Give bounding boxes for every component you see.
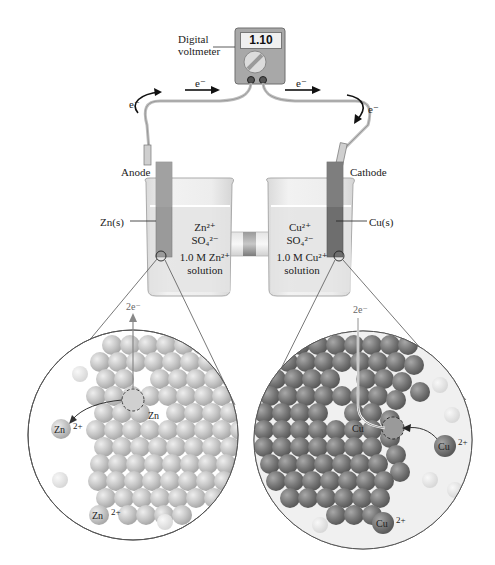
electron-label-right-arrow: e⁻ xyxy=(296,77,307,89)
cu-reduction-site xyxy=(382,417,404,439)
electron-label-left-arrow: e⁻ xyxy=(195,77,206,89)
cathode-concentration: 1.0 M Cu²⁺ xyxy=(265,251,339,264)
left-wire-outline xyxy=(145,83,251,150)
cu-ion-2-charge: 2+ xyxy=(396,514,406,526)
zn-ion-1-label: Zn xyxy=(54,424,65,436)
cathode-ion-so4: SO₄²⁻ xyxy=(270,234,330,247)
anode-label: Anode xyxy=(121,166,150,178)
voltmeter-label-line1: Digital xyxy=(178,33,209,45)
zinc-electrode-label: Zn(s) xyxy=(100,216,124,228)
electron-label-left-curve: e⁻ xyxy=(129,98,140,110)
cu-ion-1-label: Cu xyxy=(438,441,450,453)
cu-atom-label: Cu xyxy=(352,423,364,435)
right-wire xyxy=(263,83,370,148)
copper-surface-zoom xyxy=(254,318,474,551)
left-wire xyxy=(145,83,251,150)
voltmeter-label-line2: voltmeter xyxy=(178,45,220,57)
galvanic-cell-diagram xyxy=(0,0,495,565)
zn-electrons-label: 2e⁻ xyxy=(126,301,141,313)
cu-ion-1-charge: 2+ xyxy=(458,436,468,448)
zn-ion-2-label: Zn xyxy=(92,510,103,522)
anode-ion-so4: SO₄²⁻ xyxy=(175,234,235,247)
zn-ion-1-charge: 2+ xyxy=(73,420,83,432)
cathode-label: Cathode xyxy=(350,166,387,178)
anode-concentration: 1.0 M Zn²⁺ xyxy=(168,251,242,264)
voltmeter-reading: 1.10 xyxy=(240,32,282,49)
anode-solution-label: solution xyxy=(168,264,242,277)
cu-electrons-label: 2e⁻ xyxy=(353,304,368,316)
zn-oxidation-site xyxy=(122,389,144,411)
cathode-ion-cu: Cu²⁺ xyxy=(270,221,330,234)
cu-ion-2-label: Cu xyxy=(376,518,388,530)
anode-ion-zn: Zn²⁺ xyxy=(175,221,235,234)
electron-label-right-curve: e⁻ xyxy=(368,103,379,115)
anode-clip xyxy=(144,145,151,165)
zn-atom-label: Zn xyxy=(148,410,159,422)
cathode-solution-label: solution xyxy=(265,264,339,277)
zn-ion-2-charge: 2+ xyxy=(111,506,121,518)
copper-electrode-label: Cu(s) xyxy=(369,216,393,228)
